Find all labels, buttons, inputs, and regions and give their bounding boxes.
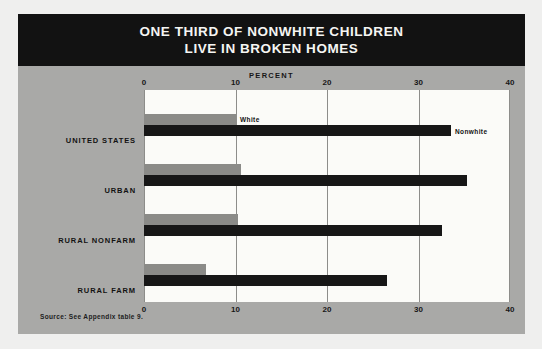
gridline-30	[419, 90, 420, 302]
chart-title-band: ONE THIRD OF NONWHITE CHILDREN LIVE IN B…	[18, 14, 525, 66]
x-tick-top-40: 40	[506, 78, 515, 87]
x-axis-title: PERCENT	[18, 71, 525, 80]
source-note: Source: See Appendix table 9.	[40, 313, 143, 320]
bar-rural-farm-nonwhite	[144, 275, 387, 286]
bar-rural-nonfarm-white	[144, 214, 238, 225]
category-label-rural-nonfarm: RURAL NONFARM	[58, 236, 136, 245]
bar-rural-farm-white	[144, 264, 206, 275]
x-tick-bottom-30: 30	[414, 305, 423, 314]
x-tick-top-10: 10	[231, 78, 240, 87]
category-label-rural-farm: RURAL FARM	[78, 286, 136, 295]
gridline-20	[327, 90, 328, 302]
x-tick-top-20: 20	[323, 78, 332, 87]
x-tick-top-0: 0	[142, 78, 146, 87]
chart-figure: ONE THIRD OF NONWHITE CHILDREN LIVE IN B…	[18, 14, 525, 334]
chart-title-line-1: ONE THIRD OF NONWHITE CHILDREN	[140, 23, 404, 40]
bar-united-states-nonwhite	[144, 125, 451, 136]
chart-title-line-2: LIVE IN BROKEN HOMES	[185, 40, 359, 57]
bar-caption-nonwhite: Nonwhite	[455, 128, 487, 135]
bar-caption-white: White	[240, 116, 260, 123]
category-label-united-states: UNITED STATES	[66, 136, 136, 145]
bar-urban-white	[144, 164, 241, 175]
x-tick-bottom-10: 10	[231, 305, 240, 314]
category-label-urban: URBAN	[104, 186, 136, 195]
gridline-40	[509, 90, 510, 302]
bar-united-states-white	[144, 114, 236, 125]
gridline-10	[236, 90, 237, 302]
x-tick-bottom-40: 40	[506, 305, 515, 314]
x-tick-bottom-20: 20	[323, 305, 332, 314]
bar-urban-nonwhite	[144, 175, 467, 186]
plot-area: White Nonwhite	[144, 90, 510, 302]
bar-rural-nonfarm-nonwhite	[144, 225, 442, 236]
x-tick-top-30: 30	[414, 78, 423, 87]
